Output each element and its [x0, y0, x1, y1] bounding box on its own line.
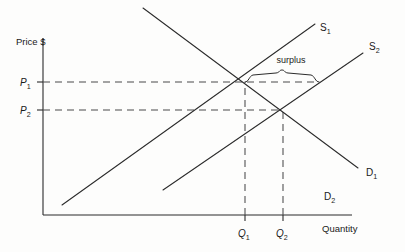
curve-label-s2: S2: [369, 41, 380, 55]
surplus-brace: [245, 70, 319, 82]
quantity-label-q1: Q1: [238, 228, 250, 242]
labels-group: Price $ Quantity P1 P2 Q1 Q2 S1 S2 D1: [16, 22, 380, 242]
price-label-p1: P1: [20, 77, 31, 91]
axes-group: [43, 38, 352, 215]
curve-label-d1: D1: [366, 167, 377, 181]
curve-label-s1: S1: [320, 22, 331, 36]
curve-label-d2: D2: [324, 191, 335, 205]
price-label-p2: P2: [20, 105, 31, 119]
guide-lines-group: [43, 82, 318, 215]
supply-curve-s2: [163, 53, 363, 190]
brace-path: [245, 70, 319, 82]
supply-curve-s1: [62, 24, 315, 205]
diagram-canvas: Price $ Quantity P1 P2 Q1 Q2 S1 S2 D1: [0, 0, 405, 252]
quantity-label-q2: Q2: [276, 228, 288, 242]
x-axis-title: Quantity: [322, 223, 358, 234]
surplus-annotation: surplus: [276, 55, 306, 65]
curves-group: [62, 8, 363, 205]
supply-demand-diagram: Price $ Quantity P1 P2 Q1 Q2 S1 S2 D1: [0, 0, 405, 252]
y-axis-title: Price $: [16, 36, 46, 47]
axis-ticks-group: [37, 82, 283, 221]
